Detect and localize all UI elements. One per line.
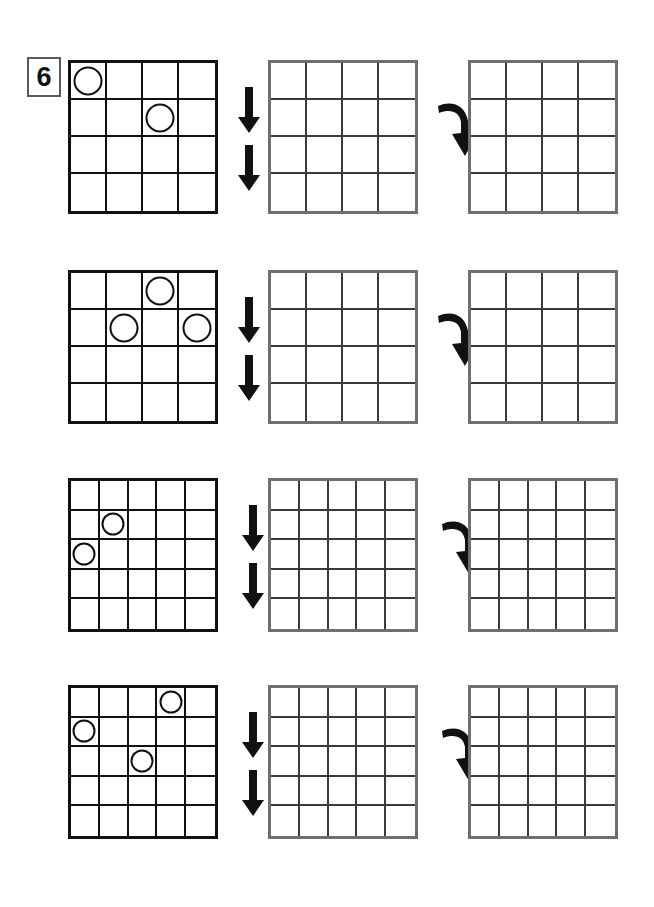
grid-cell[interactable]	[271, 273, 307, 310]
grid-cell[interactable]	[100, 688, 129, 718]
grid-cell[interactable]	[379, 273, 415, 310]
grid-cell[interactable]	[300, 540, 329, 570]
grid-cell[interactable]	[157, 718, 186, 748]
grid-cell[interactable]	[329, 777, 358, 807]
grid-cell[interactable]	[343, 310, 379, 347]
grid-cell[interactable]	[186, 599, 215, 629]
grid-cell[interactable]	[357, 540, 386, 570]
grid-cell[interactable]	[143, 273, 179, 310]
grid-cell[interactable]	[471, 570, 500, 600]
grid-cell[interactable]	[100, 599, 129, 629]
grid-cell[interactable]	[271, 174, 307, 211]
grid-cell[interactable]	[179, 174, 215, 211]
grid-cell[interactable]	[129, 511, 158, 541]
source-grid-row-3[interactable]	[68, 478, 218, 632]
grid-cell[interactable]	[343, 347, 379, 384]
blank-grid-right-row-2[interactable]	[468, 270, 618, 424]
grid-cell[interactable]	[300, 511, 329, 541]
grid-cell[interactable]	[143, 384, 179, 421]
grid-cell[interactable]	[186, 718, 215, 748]
blank-grid-middle-row-4[interactable]	[268, 685, 418, 839]
grid-cell[interactable]	[357, 570, 386, 600]
grid-cell[interactable]	[471, 511, 500, 541]
grid-cell[interactable]	[343, 384, 379, 421]
grid-cell[interactable]	[543, 273, 579, 310]
grid-cell[interactable]	[471, 347, 507, 384]
grid-cell[interactable]	[71, 777, 100, 807]
grid-cell[interactable]	[329, 511, 358, 541]
grid-cell[interactable]	[586, 777, 615, 807]
grid-cell[interactable]	[471, 273, 507, 310]
grid-cell[interactable]	[100, 570, 129, 600]
grid-cell[interactable]	[586, 540, 615, 570]
grid-cell[interactable]	[543, 310, 579, 347]
grid-cell[interactable]	[357, 806, 386, 836]
grid-cell[interactable]	[586, 511, 615, 541]
grid-cell[interactable]	[543, 347, 579, 384]
grid-cell[interactable]	[186, 511, 215, 541]
grid-cell[interactable]	[186, 747, 215, 777]
grid-cell[interactable]	[329, 570, 358, 600]
grid-cell[interactable]	[71, 599, 100, 629]
grid-cell[interactable]	[71, 481, 100, 511]
grid-cell[interactable]	[107, 347, 143, 384]
grid-cell[interactable]	[300, 688, 329, 718]
grid-cell[interactable]	[329, 747, 358, 777]
grid-cell[interactable]	[100, 718, 129, 748]
grid-cell[interactable]	[107, 174, 143, 211]
grid-cell[interactable]	[579, 347, 615, 384]
grid-cell[interactable]	[129, 747, 158, 777]
grid-cell[interactable]	[129, 777, 158, 807]
grid-cell[interactable]	[386, 540, 415, 570]
grid-cell[interactable]	[529, 599, 558, 629]
grid-cell[interactable]	[329, 599, 358, 629]
grid-cell[interactable]	[586, 599, 615, 629]
grid-cell[interactable]	[71, 570, 100, 600]
grid-cell[interactable]	[107, 310, 143, 347]
grid-cell[interactable]	[307, 273, 343, 310]
grid-cell[interactable]	[129, 481, 158, 511]
grid-cell[interactable]	[386, 806, 415, 836]
grid-cell[interactable]	[500, 511, 529, 541]
grid-cell[interactable]	[386, 599, 415, 629]
grid-cell[interactable]	[71, 688, 100, 718]
grid-cell[interactable]	[71, 384, 107, 421]
blank-grid-right-row-3[interactable]	[468, 478, 618, 632]
grid-cell[interactable]	[500, 599, 529, 629]
grid-cell[interactable]	[179, 384, 215, 421]
grid-cell[interactable]	[271, 718, 300, 748]
grid-cell[interactable]	[500, 777, 529, 807]
grid-cell[interactable]	[529, 806, 558, 836]
grid-cell[interactable]	[271, 688, 300, 718]
grid-cell[interactable]	[329, 806, 358, 836]
grid-cell[interactable]	[71, 511, 100, 541]
grid-cell[interactable]	[586, 806, 615, 836]
grid-cell[interactable]	[157, 777, 186, 807]
grid-cell[interactable]	[471, 174, 507, 211]
grid-cell[interactable]	[271, 540, 300, 570]
grid-cell[interactable]	[507, 347, 543, 384]
grid-cell[interactable]	[471, 747, 500, 777]
grid-cell[interactable]	[343, 273, 379, 310]
grid-cell[interactable]	[529, 481, 558, 511]
grid-cell[interactable]	[357, 688, 386, 718]
grid-cell[interactable]	[300, 718, 329, 748]
grid-cell[interactable]	[507, 174, 543, 211]
grid-cell[interactable]	[586, 718, 615, 748]
grid-cell[interactable]	[557, 540, 586, 570]
grid-cell[interactable]	[586, 481, 615, 511]
grid-cell[interactable]	[271, 777, 300, 807]
grid-cell[interactable]	[557, 570, 586, 600]
grid-cell[interactable]	[386, 718, 415, 748]
grid-cell[interactable]	[357, 481, 386, 511]
grid-cell[interactable]	[586, 747, 615, 777]
grid-cell[interactable]	[471, 310, 507, 347]
grid-cell[interactable]	[157, 540, 186, 570]
grid-cell[interactable]	[186, 806, 215, 836]
grid-cell[interactable]	[357, 718, 386, 748]
grid-cell[interactable]	[71, 747, 100, 777]
grid-cell[interactable]	[129, 806, 158, 836]
blank-grid-right-row-4[interactable]	[468, 685, 618, 839]
grid-cell[interactable]	[129, 540, 158, 570]
grid-cell[interactable]	[471, 384, 507, 421]
